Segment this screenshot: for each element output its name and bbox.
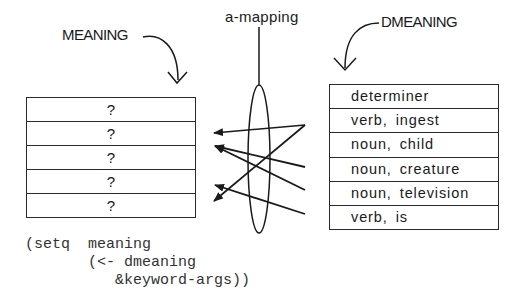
dmeaning-row: verb, ingest	[330, 109, 498, 133]
dmeaning-label: DMEANING	[381, 13, 457, 30]
code-line: (<- dmeaning	[25, 254, 250, 272]
meaning-row: ?	[27, 122, 195, 146]
dmeaning-row: verb, is	[330, 206, 498, 230]
code-line: (setq meaning	[25, 236, 250, 254]
dmeaning-pointer-arrow	[334, 23, 379, 70]
meaning-row: ?	[27, 194, 195, 218]
meaning-row: ?	[27, 98, 195, 122]
meaning-pointer-arrow	[143, 36, 187, 83]
dmeaning-row: noun, creature	[330, 158, 498, 182]
diagram: MEANING a-mapping DMEANING ? ? ? ? ? det…	[0, 0, 521, 305]
a-mapping-label: a-mapping	[225, 8, 299, 25]
code-line: &keyword-args))	[25, 272, 250, 290]
meaning-label: MEANING	[62, 26, 128, 43]
meaning-table: ? ? ? ? ?	[26, 97, 196, 218]
meaning-row: ?	[27, 146, 195, 170]
dmeaning-row: determiner	[330, 85, 498, 109]
dmeaning-table: determiner verb, ingest noun, child noun…	[329, 84, 499, 230]
lisp-code-block: (setq meaning (<- dmeaning &keyword-args…	[25, 236, 250, 290]
dmeaning-row: noun, television	[330, 182, 498, 206]
meaning-row: ?	[27, 170, 195, 194]
dmeaning-row: noun, child	[330, 133, 498, 157]
mapping-arrows	[214, 125, 305, 214]
